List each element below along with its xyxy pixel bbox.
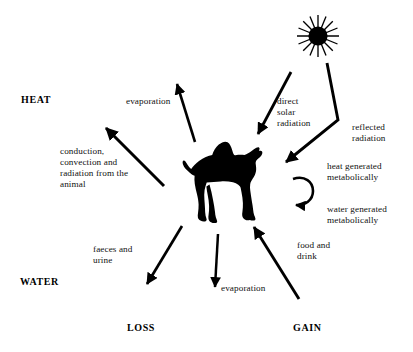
arrow-faeces-and-urine [147, 226, 182, 284]
sun-icon [297, 15, 339, 57]
flow-label-heat-generated-metabolically: heat generated metabolically [327, 161, 382, 183]
camel-energy-water-balance-diagram: HEAT WATER LOSS GAIN evaporation conduct… [0, 0, 413, 352]
arrow-evaporation-heat [177, 84, 195, 142]
arrow-metabolic-loop [293, 178, 313, 205]
flow-label-evaporation-water: evaporation [221, 283, 265, 294]
camel-silhouette [183, 142, 263, 223]
flow-label-water-generated-metabolically: water generated metabolically [327, 204, 387, 226]
axis-label-heat: HEAT [21, 94, 51, 105]
axis-label-gain: GAIN [293, 322, 322, 333]
axis-label-loss: LOSS [127, 322, 155, 333]
axis-label-water: WATER [20, 276, 59, 287]
arrow-evaporation-water [215, 234, 218, 287]
flow-label-direct-solar-radiation: direct solar radiation [277, 96, 311, 129]
flow-label-faeces-and-urine: faeces and urine [93, 244, 133, 266]
flow-label-conduction-convection-radiation: conduction, convection and radiation fro… [60, 146, 128, 190]
flow-label-evaporation-heat: evaporation [126, 96, 170, 107]
flow-label-reflected-radiation: reflected radiation [352, 122, 386, 144]
flow-label-food-and-drink: food and drink [297, 240, 330, 262]
